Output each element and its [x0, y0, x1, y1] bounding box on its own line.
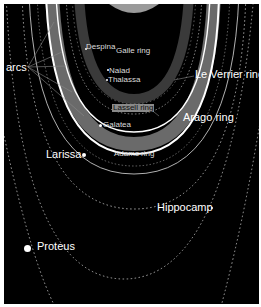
label-arago-ring: Arago ring: [183, 112, 234, 123]
label-thalassa: Thalassa: [108, 76, 140, 84]
label-galle-ring: Galle ring: [116, 47, 150, 55]
larissa-dot: [82, 153, 86, 157]
label-le-verrier-ring: Le Verrier ring: [195, 69, 259, 80]
label-naiad: Naiad: [109, 67, 130, 75]
label-despina: Despina: [86, 43, 115, 51]
proteus-dot: [24, 245, 31, 252]
neptune-planet-edge: [104, 4, 164, 13]
label-lassell-ring: Lassell ring: [112, 104, 154, 112]
proteus-orbit-right: [219, 64, 259, 304]
label-proteus: Proteus: [37, 241, 75, 252]
label-galatea: Galatea: [103, 121, 131, 129]
neptune-rings-diagram: arcs Despina Galle ring Naiad Thalassa L…: [4, 4, 259, 304]
label-hippocamp: Hippocamp: [157, 202, 213, 213]
label-adams-ring: Adams ring: [114, 150, 154, 158]
galatea-dot: [99, 124, 102, 127]
label-arcs: arcs: [6, 62, 27, 73]
label-larissa: Larissa: [46, 149, 81, 160]
